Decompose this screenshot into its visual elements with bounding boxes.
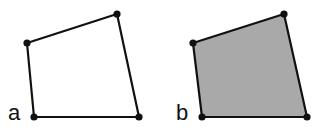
panel-label-a: a	[8, 100, 21, 125]
vertex-dot	[30, 113, 37, 120]
quadrilateral-filled	[193, 14, 307, 117]
vertex-dot	[113, 10, 120, 17]
panel-b: b	[176, 10, 311, 125]
vertex-dot	[280, 10, 287, 17]
vertex-dot	[23, 39, 30, 46]
vertex-dot	[189, 39, 196, 46]
vertex-dot	[303, 113, 310, 120]
panel-label-b: b	[176, 100, 188, 125]
quadrilateral-outline	[27, 14, 139, 117]
vertex-dot	[135, 113, 142, 120]
panel-a: a	[8, 10, 143, 125]
vertex-dot	[198, 113, 205, 120]
quadrilateral-diagram: a b	[0, 0, 320, 130]
